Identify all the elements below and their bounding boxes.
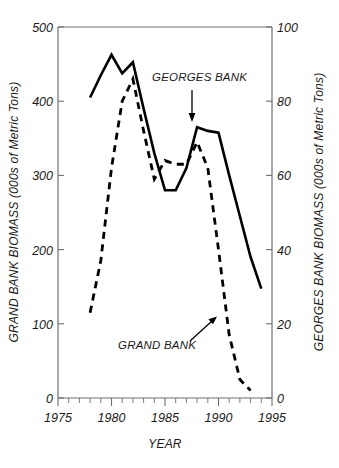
x-ticklabel-1980: 1980 <box>98 411 126 425</box>
left-ticklabel-200: 200 <box>31 244 53 258</box>
x-ticklabel-1995: 1995 <box>258 411 286 425</box>
left-axis-ticks <box>58 27 64 398</box>
annotation-grand-bank-label: GRAND BANK <box>118 339 197 351</box>
x-ticklabel-1975: 1975 <box>44 411 72 425</box>
x-axis-ticks <box>58 398 272 406</box>
right-ticklabel-40: 40 <box>277 244 291 258</box>
left-ticklabel-100: 100 <box>32 318 53 332</box>
left-ticklabel-300: 300 <box>32 169 53 183</box>
left-ticklabel-500: 500 <box>32 21 53 35</box>
biomass-line-chart: 500 400 300 200 100 0 100 80 60 40 20 0 … <box>0 0 339 468</box>
annotation-georges-bank: GEORGES BANK <box>152 71 248 122</box>
annotation-grand-bank: GRAND BANK <box>118 317 217 352</box>
right-axis-ticks <box>266 27 272 398</box>
right-ticklabel-60: 60 <box>277 169 291 183</box>
left-ticklabel-400: 400 <box>32 95 53 109</box>
georges-bank-arrow-head-icon <box>189 113 196 122</box>
x-ticklabel-1985: 1985 <box>151 411 179 425</box>
right-axis-title: GEORGES BANK BIOMASS (000s of Metric Ton… <box>312 73 326 352</box>
right-tick-labels: 100 80 60 40 20 0 <box>276 21 298 406</box>
grand-bank-arrow-line <box>190 321 212 341</box>
left-tick-labels: 500 400 300 200 100 0 <box>31 21 53 406</box>
right-ticklabel-100: 100 <box>277 21 298 35</box>
series-georges-bank <box>90 55 261 289</box>
left-axis-title: GRAND BANK BIOMASS (000s of Metric Tons) <box>7 82 21 343</box>
x-ticklabel-1990: 1990 <box>205 411 233 425</box>
x-axis-title: YEAR <box>148 437 182 451</box>
x-tick-labels: 1975 1980 1985 1990 1995 <box>44 411 286 425</box>
right-ticklabel-20: 20 <box>276 318 291 332</box>
annotation-georges-bank-label: GEORGES BANK <box>152 71 248 83</box>
right-ticklabel-0: 0 <box>277 392 284 406</box>
right-ticklabel-80: 80 <box>277 95 291 109</box>
left-ticklabel-0: 0 <box>46 392 53 406</box>
chart-figure: 500 400 300 200 100 0 100 80 60 40 20 0 … <box>0 0 339 468</box>
